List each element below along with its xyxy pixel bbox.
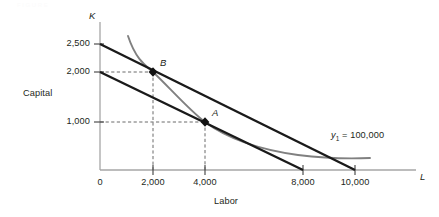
figure-container: FIGURE [0,0,439,217]
y-axis-symbol: K [89,11,95,21]
x-tick-label-2000: 2,000 [133,178,173,187]
isoquant-label: y1 = 100,000 [331,131,384,142]
x-axis-symbol: L [420,172,425,182]
y-tick-label-2000: 2,000 [50,67,90,76]
y-tick-label-2500: 2,500 [50,39,90,48]
point-b-label: B [160,58,166,68]
x-axis-title: Labor [214,197,238,206]
guide-lines [100,72,205,170]
point-a-label: A [212,108,218,118]
x-tick-label-10000: 10,000 [332,178,378,187]
x-tick-label-0: 0 [85,178,115,187]
y-tick-label-1000: 1,000 [50,117,90,126]
x-tick-label-4000: 4,000 [185,178,225,187]
isocost-line-lower [100,72,303,170]
isocost-line-upper [100,44,355,170]
y-axis-title: Capital [23,89,52,98]
isoquant-label-value: = 100,000 [339,130,384,140]
x-tick-label-8000: 8,000 [283,178,323,187]
y-axis-ticks [94,44,104,122]
